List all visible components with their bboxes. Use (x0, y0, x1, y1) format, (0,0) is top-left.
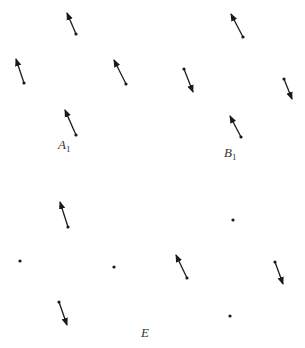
zero-vector-point (228, 314, 231, 317)
group-label-e: E (141, 326, 149, 339)
vector-arrow-icon (230, 116, 241, 137)
vector-arrow-icon (176, 255, 187, 278)
zero-vector-point (231, 218, 234, 221)
group-label-main: B (224, 145, 232, 160)
vectors-layer (16, 13, 292, 325)
vector-arrow-icon (114, 60, 126, 84)
vector-arrow-icon (184, 69, 193, 92)
vector-arrow-icon (59, 302, 67, 325)
vector-arrow-icon (16, 59, 24, 83)
vector-group-b1 (182, 14, 292, 139)
vector-field-diagram (0, 0, 305, 348)
group-label-subscript: 1 (66, 144, 71, 154)
vector-arrow-icon (231, 14, 243, 37)
vector-arrow-icon (284, 79, 292, 99)
zero-vector-point (18, 259, 21, 262)
group-label-subscript: 1 (232, 152, 237, 162)
group-label-a1: A1 (58, 138, 70, 154)
group-label-main: A (58, 137, 66, 152)
zero-vector-point (112, 265, 115, 268)
vector-arrow-icon (60, 202, 68, 227)
group-label-main: E (141, 325, 149, 340)
vector-arrow-icon (67, 13, 76, 34)
group-label-b1: B1 (224, 146, 236, 162)
vector-arrow-icon (65, 110, 76, 135)
points-layer (18, 218, 234, 317)
vector-group-a1 (16, 13, 128, 137)
vector-arrow-icon (275, 262, 283, 284)
vector-group-e (57, 202, 283, 325)
